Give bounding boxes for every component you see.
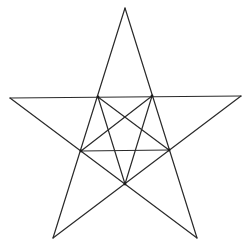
outer-star-lines <box>10 8 241 238</box>
inner-vertex-upper-left <box>97 96 100 99</box>
top-to-bottom-right-line <box>125 8 197 238</box>
inner-star-lines <box>81 96 169 184</box>
inner-left-to-inner-right-line <box>81 150 169 151</box>
inner-vertex-upper-right <box>151 95 154 98</box>
inner-vertex-right <box>168 149 171 152</box>
inner-vertex-left <box>80 150 83 153</box>
left-to-right-line <box>10 96 241 98</box>
inner-upper-left-to-inner-right-line <box>98 97 169 150</box>
inner-upper-right-to-inner-left-line <box>81 96 152 151</box>
inner-upper-right-to-inner-bottom-line <box>125 96 152 184</box>
inner-vertex-bottom <box>124 183 127 186</box>
right-to-bottom-left-line <box>53 96 241 238</box>
left-to-bottom-right-line <box>10 98 197 238</box>
pentagram-diagram <box>0 0 248 246</box>
inner-upper-left-to-inner-bottom-line <box>98 97 125 184</box>
top-to-bottom-left-line <box>53 8 125 238</box>
